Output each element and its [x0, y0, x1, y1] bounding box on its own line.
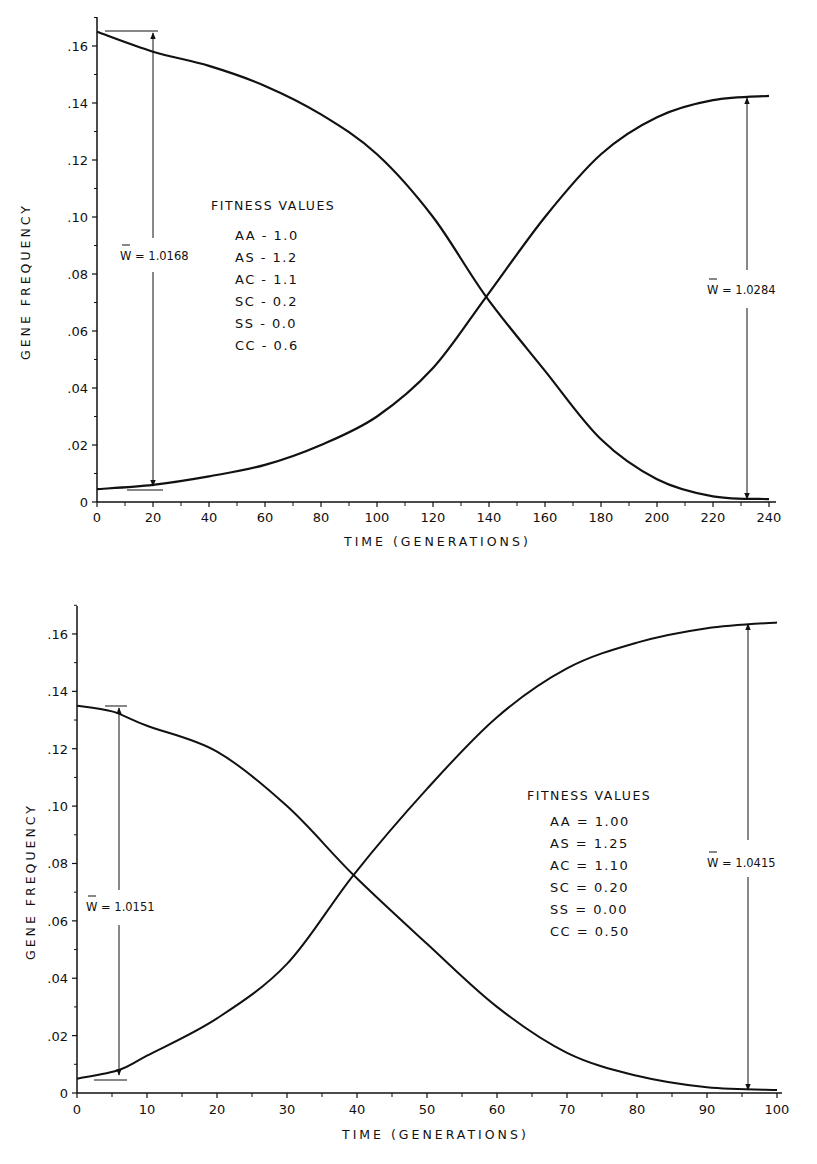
x-tick-label: 70	[559, 1102, 576, 1117]
top-left-mean-fitness-label: W = 1.0168	[120, 249, 189, 263]
y-tick-label: .10	[47, 799, 68, 814]
y-tick-label: .16	[67, 39, 88, 54]
x-tick-label: 240	[757, 510, 782, 525]
bottom-legend-item: CC = 0.50	[550, 924, 630, 939]
x-tick-label: 90	[699, 1102, 716, 1117]
x-tick-label: 140	[477, 510, 502, 525]
y-tick-label: .06	[47, 914, 68, 929]
bottom-decreasing-curve	[77, 706, 777, 1090]
bottom-right-mean-fitness-label: W = 1.0415	[707, 856, 776, 870]
x-tick-label: 50	[419, 1102, 436, 1117]
x-tick-label: 180	[589, 510, 614, 525]
bottom-left-mean-fitness-bar: W = 1.0151	[86, 706, 155, 1080]
y-tick-label: .04	[67, 381, 88, 396]
top-x-ticks: 020406080100120140160180200220240	[93, 502, 782, 525]
top-increasing-curve	[97, 96, 769, 489]
top-legend-item: AA - 1.0	[235, 228, 299, 243]
x-tick-label: 160	[533, 510, 558, 525]
y-tick-label: .14	[67, 96, 88, 111]
x-tick-label: 100	[765, 1102, 790, 1117]
y-tick-label: .10	[67, 210, 88, 225]
y-tick-label: .04	[47, 971, 68, 986]
x-tick-label: 40	[349, 1102, 366, 1117]
x-tick-label: 200	[645, 510, 670, 525]
bottom-x-axis-title: TIME (GENERATIONS)	[341, 1127, 529, 1142]
top-right-mean-fitness-bar: W = 1.0284	[707, 98, 776, 499]
y-tick-label: .16	[47, 627, 68, 642]
figure: 0.02.04.06.08.10.12.14.16 02040608010012…	[0, 0, 817, 1164]
bottom-left-mean-fitness-label: W = 1.0151	[86, 900, 155, 914]
x-tick-label: 0	[93, 510, 101, 525]
top-axes	[97, 17, 776, 502]
top-legend-item: SS - 0.0	[235, 316, 297, 331]
y-tick-label: 0	[60, 1086, 68, 1101]
bottom-legend-item: AC = 1.10	[550, 858, 629, 873]
y-tick-label: .08	[47, 856, 68, 871]
bottom-chart: 0.02.04.06.08.10.12.14.16 01020304050607…	[23, 605, 789, 1142]
bottom-legend-item: AS = 1.25	[550, 836, 629, 851]
y-tick-label: .02	[47, 1029, 68, 1044]
bottom-legend-title: FITNESS VALUES	[527, 788, 651, 803]
y-tick-label: .06	[67, 324, 88, 339]
top-legend-item: AS - 1.2	[235, 250, 298, 265]
y-tick-label: .08	[67, 267, 88, 282]
top-legend-item: CC - 0.6	[235, 338, 299, 353]
x-tick-label: 10	[139, 1102, 156, 1117]
top-x-axis-title: TIME (GENERATIONS)	[343, 534, 531, 549]
bottom-axes	[77, 606, 782, 1093]
x-tick-label: 120	[421, 510, 446, 525]
y-tick-label: .14	[47, 684, 68, 699]
bottom-y-ticks: 0.02.04.06.08.10.12.14.16	[47, 605, 77, 1101]
bottom-legend-item: AA = 1.00	[550, 814, 630, 829]
bottom-y-axis-title: GENE FREQUENCY	[23, 803, 38, 960]
bottom-legend-item: SC = 0.20	[550, 880, 629, 895]
bottom-legend-item: SS = 0.00	[550, 902, 628, 917]
x-tick-label: 40	[201, 510, 218, 525]
top-legend-item: AC - 1.1	[235, 272, 298, 287]
bottom-right-mean-fitness-bar: W = 1.0415	[707, 624, 776, 1090]
bottom-x-ticks: 0102030405060708090100	[73, 1093, 790, 1117]
bottom-increasing-curve	[77, 623, 777, 1079]
top-legend-title: FITNESS VALUES	[211, 198, 335, 213]
x-tick-label: 60	[489, 1102, 506, 1117]
top-chart: 0.02.04.06.08.10.12.14.16 02040608010012…	[18, 17, 781, 549]
bottom-fitness-legend: FITNESS VALUES AA = 1.00 AS = 1.25 AC = …	[527, 788, 651, 939]
y-tick-label: .02	[67, 438, 88, 453]
x-tick-label: 80	[313, 510, 330, 525]
x-tick-label: 100	[365, 510, 390, 525]
top-y-ticks: 0.02.04.06.08.10.12.14.16	[67, 18, 97, 511]
x-tick-label: 30	[279, 1102, 296, 1117]
top-legend-item: SC - 0.2	[235, 294, 298, 309]
top-right-mean-fitness-label: W = 1.0284	[707, 283, 776, 297]
y-tick-label: .12	[67, 153, 88, 168]
x-tick-label: 0	[73, 1102, 81, 1117]
top-decreasing-curve	[97, 32, 769, 499]
top-y-axis-title: GENE FREQUENCY	[18, 203, 33, 360]
x-tick-label: 80	[629, 1102, 646, 1117]
x-tick-label: 60	[257, 510, 274, 525]
top-fitness-legend: FITNESS VALUES AA - 1.0 AS - 1.2 AC - 1.…	[211, 198, 335, 353]
x-tick-label: 220	[701, 510, 726, 525]
top-left-mean-fitness-bar: W = 1.0168	[105, 31, 189, 490]
y-tick-label: 0	[80, 495, 88, 510]
x-tick-label: 20	[209, 1102, 226, 1117]
y-tick-label: .12	[47, 742, 68, 757]
x-tick-label: 20	[145, 510, 162, 525]
